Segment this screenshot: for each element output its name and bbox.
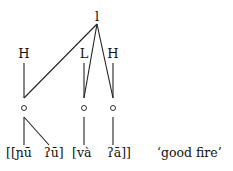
tone-label-l: L — [80, 47, 89, 60]
node-circle-1 — [21, 105, 27, 111]
node-circle-2 — [81, 105, 87, 111]
segment-word-2b: ʔā]] — [107, 147, 131, 160]
tone-label-h1: H — [18, 47, 29, 60]
gloss-text: ‘good fire’ — [157, 147, 222, 160]
tone-label-h2: H — [107, 47, 118, 60]
segment-word-2a: [và — [72, 147, 91, 160]
autosegmental-diagram: l H L H [[ɲū ʔū] [và ʔā]] ‘good fire’ — [0, 0, 233, 171]
segment-word-1b: ʔū] — [44, 147, 64, 160]
node-circle-3 — [110, 105, 116, 111]
root-node-label: l — [95, 10, 99, 23]
segment-word-1a: [[ɲū — [6, 147, 32, 160]
